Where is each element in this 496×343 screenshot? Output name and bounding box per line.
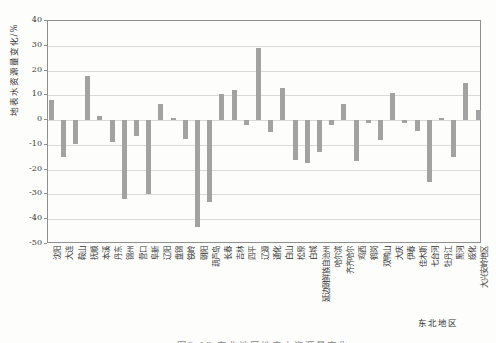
x-tick-label: 齐齐哈尔 (347, 246, 355, 274)
bar-chart-figure: 地表水资源量变化/% 403020100-10-20-30-40-50 沈阳大连… (0, 0, 496, 343)
bar-伊春 (402, 120, 407, 123)
x-tick-label: 双鸭山 (384, 246, 392, 267)
x-tick-label: 鸡西 (359, 246, 367, 260)
y-tick-label: 10 (0, 89, 42, 99)
x-tick-label: 白城 (310, 246, 318, 260)
x-tick-label: 大庆 (396, 246, 404, 260)
bar-延边朝鲜族自治州 (317, 120, 322, 152)
y-tick-label: -10 (0, 139, 42, 149)
x-tick-label: 丹东 (115, 246, 123, 260)
y-tick-mark (44, 193, 47, 194)
x-tick-label: 鞍山 (79, 246, 87, 260)
gridline (48, 95, 480, 96)
bar-白城 (305, 120, 310, 163)
y-tick-label: 0 (0, 114, 42, 124)
x-axis-title: 东北地区 (418, 316, 458, 328)
bar-长春 (219, 94, 224, 120)
bar-吉林 (232, 90, 237, 120)
y-tick-mark (44, 20, 47, 21)
x-tick-label: 通化 (274, 246, 282, 260)
plot-area (47, 20, 481, 243)
x-tick-label: 松原 (298, 246, 306, 260)
bar-佳木斯 (415, 120, 420, 131)
bar-鞍山 (73, 120, 78, 144)
y-tick-mark (44, 45, 47, 46)
x-tick-label: 吉林 (237, 246, 245, 260)
bar-锦州 (122, 120, 127, 199)
bar-七台河 (427, 120, 432, 182)
bar-丹东 (110, 120, 115, 142)
y-tick-label: 40 (0, 15, 42, 25)
x-tick-label: 沈阳 (54, 246, 62, 260)
y-tick-mark (44, 243, 47, 244)
y-tick-label: -30 (0, 188, 42, 198)
bar-辽阳 (158, 104, 163, 120)
bar-辽源 (256, 48, 261, 120)
bar-绥化 (463, 83, 468, 120)
gridline (48, 145, 480, 146)
x-tick-label: 大兴安岭地区 (481, 246, 489, 288)
x-tick-label: 延边朝鲜族自治州 (323, 246, 331, 302)
gridline (48, 219, 480, 220)
bar-哈尔滨 (329, 120, 334, 125)
x-tick-label: 锦州 (127, 246, 135, 260)
x-tick-label: 七台河 (432, 246, 440, 267)
x-tick-label: 长春 (225, 246, 233, 260)
figure-caption-clipped: 图2-12 东北地区地表水资源量变化 (30, 338, 496, 343)
x-tick-label: 伊春 (408, 246, 416, 260)
bar-齐齐哈尔 (341, 104, 346, 120)
x-tick-label: 辽源 (262, 246, 270, 260)
y-tick-mark (44, 218, 47, 219)
bar-黑河 (451, 120, 456, 157)
bar-松原 (293, 120, 298, 160)
bar-铁岭 (183, 120, 188, 139)
y-tick-label: 20 (0, 65, 42, 75)
x-tick-label: 朝阳 (201, 246, 209, 260)
gridline (48, 71, 480, 72)
bar-双鸭山 (378, 120, 383, 140)
bar-沈阳 (49, 100, 54, 120)
x-tick-label: 葫芦岛 (213, 246, 221, 267)
x-tick-label: 牡丹江 (445, 246, 453, 267)
x-tick-label: 本溪 (103, 246, 111, 260)
x-tick-label: 哈尔滨 (335, 246, 343, 267)
x-tick-label: 营口 (140, 246, 148, 260)
bar-葫芦岛 (207, 120, 212, 202)
bar-鹤岗 (366, 120, 371, 123)
y-tick-mark (44, 94, 47, 95)
x-tick-label: 绥化 (469, 246, 477, 260)
bar-阜新 (146, 120, 151, 194)
bar-朝阳 (195, 120, 200, 227)
x-tick-label: 铁岭 (188, 246, 196, 260)
x-tick-label: 阜新 (152, 246, 160, 260)
bar-大连 (61, 120, 66, 157)
y-tick-label: 30 (0, 40, 42, 50)
x-tick-label: 鹤岗 (371, 246, 379, 260)
y-tick-label: -50 (0, 238, 42, 248)
bar-大庆 (390, 93, 395, 120)
gridline (48, 46, 480, 47)
bar-抚顺 (85, 76, 90, 121)
bar-通化 (268, 120, 273, 132)
bar-四平 (244, 120, 249, 125)
y-tick-label: -20 (0, 164, 42, 174)
bar-大兴安岭地区 (476, 110, 481, 120)
bar-盘锦 (171, 118, 176, 121)
y-tick-mark (44, 119, 47, 120)
x-tick-label: 辽阳 (164, 246, 172, 260)
y-tick-mark (44, 70, 47, 71)
x-tick-label: 白山 (286, 246, 294, 260)
gridline (48, 170, 480, 171)
x-tick-label: 四平 (249, 246, 257, 260)
bar-白山 (280, 88, 285, 120)
x-tick-label: 大连 (66, 246, 74, 260)
y-tick-mark (44, 169, 47, 170)
x-tick-label: 盘锦 (176, 246, 184, 260)
x-tick-label: 佳木斯 (420, 246, 428, 267)
bar-牡丹江 (439, 118, 444, 121)
y-tick-mark (44, 144, 47, 145)
gridline (48, 194, 480, 195)
y-tick-label: -40 (0, 213, 42, 223)
bar-鸡西 (354, 120, 359, 161)
x-tick-label: 黑河 (457, 246, 465, 260)
